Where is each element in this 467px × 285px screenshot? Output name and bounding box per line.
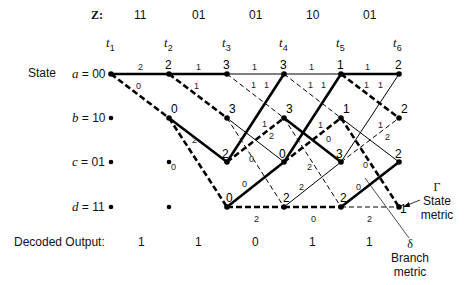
branch-t5-b-d [341, 118, 399, 207]
svg-text:1: 1 [252, 62, 257, 72]
svg-text:1: 1 [337, 58, 344, 72]
svg-text:0: 0 [171, 102, 178, 116]
decoded-bit-2: 1 [195, 235, 202, 249]
decoded-bit-3: 0 [252, 235, 259, 249]
svg-text:2: 2 [269, 131, 274, 141]
branch-t4-b-d [284, 118, 341, 207]
svg-text:2: 2 [307, 162, 312, 172]
svg-text:2: 2 [340, 191, 347, 205]
svg-text:1: 1 [321, 80, 326, 90]
svg-text:3: 3 [229, 102, 236, 116]
svg-text:1: 1 [264, 80, 269, 90]
svg-text:1: 1 [262, 119, 267, 129]
svg-text:1: 1 [196, 62, 201, 72]
svg-text:0: 0 [356, 182, 361, 192]
svg-text:1: 1 [365, 62, 370, 72]
branch-t5-a-b [341, 74, 399, 118]
branch-t2-b-d [169, 118, 227, 207]
branch-t2-b-c [169, 118, 227, 162]
svg-text:1: 1 [400, 202, 407, 216]
svg-text:0: 0 [226, 191, 233, 205]
svg-text:1: 1 [364, 80, 369, 90]
svg-text:2: 2 [138, 62, 143, 72]
svg-text:0: 0 [171, 162, 176, 172]
svg-text:2: 2 [385, 132, 390, 142]
svg-text:1: 1 [378, 120, 383, 130]
delta-symbol: δ [385, 237, 435, 251]
svg-text:1: 1 [194, 81, 199, 91]
branch-t3-d-c [227, 162, 284, 207]
svg-text:2: 2 [299, 182, 304, 192]
svg-text:2: 2 [401, 102, 408, 116]
branch-metric-annotation: δ Branch metric [385, 237, 435, 279]
svg-text:0: 0 [242, 179, 247, 189]
svg-text:1: 1 [251, 80, 256, 90]
svg-text:0: 0 [311, 214, 316, 224]
svg-text:3: 3 [336, 147, 343, 161]
svg-text:0: 0 [326, 134, 331, 144]
svg-text:3: 3 [286, 102, 293, 116]
svg-text:1: 1 [309, 62, 314, 72]
svg-text:2: 2 [283, 191, 290, 205]
decoded-bit-1: 1 [138, 235, 145, 249]
decoded-bit-4: 1 [309, 235, 316, 249]
svg-text:2: 2 [222, 147, 229, 161]
state-metric-annotation: Γ State metric [412, 180, 462, 222]
svg-text:2: 2 [395, 147, 402, 161]
svg-text:2: 2 [165, 58, 172, 72]
decoded-output-label: Decoded Output: [14, 235, 105, 249]
svg-text:1: 1 [343, 102, 350, 116]
svg-text:0: 0 [363, 160, 368, 170]
branch-t4-d-c [284, 162, 341, 207]
svg-text:2: 2 [395, 58, 402, 72]
svg-text:0: 0 [249, 154, 254, 164]
svg-text:0: 0 [136, 81, 141, 91]
svg-text:2: 2 [192, 135, 197, 145]
svg-text:0: 0 [279, 147, 286, 161]
branch-t5-c-a [341, 74, 399, 162]
decoded-bit-5: 1 [366, 235, 373, 249]
svg-text:3: 3 [223, 58, 230, 72]
svg-text:1: 1 [378, 80, 383, 90]
branch-t3-b-d [227, 118, 284, 207]
svg-text:2: 2 [254, 214, 259, 224]
svg-text:1: 1 [308, 80, 313, 90]
svg-text:1: 1 [318, 120, 323, 130]
svg-text:3: 3 [280, 58, 287, 72]
gamma-symbol: Γ [412, 180, 462, 194]
svg-text:2: 2 [367, 214, 372, 224]
